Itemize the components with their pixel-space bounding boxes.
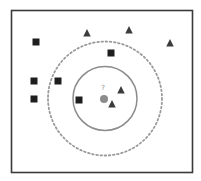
square-point bbox=[55, 78, 62, 85]
square-point bbox=[31, 96, 38, 103]
square-point bbox=[76, 97, 83, 104]
knn-diagram: ? bbox=[0, 0, 201, 181]
query-label: ? bbox=[101, 84, 105, 92]
square-point bbox=[108, 50, 115, 57]
square-point bbox=[33, 39, 40, 46]
query-point bbox=[100, 95, 108, 103]
square-point bbox=[31, 78, 38, 85]
